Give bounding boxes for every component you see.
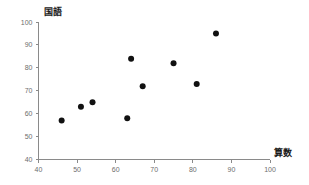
y-tick-label: 80 <box>25 64 33 71</box>
data-point <box>194 81 200 87</box>
scatter-chart: 405060708090100 405060708090100 国語 算数 <box>0 0 309 185</box>
y-axis-title: 国語 <box>44 6 62 17</box>
x-tick-label: 80 <box>189 166 197 173</box>
data-point <box>128 56 134 62</box>
data-point <box>213 30 219 36</box>
y-tick-label: 100 <box>21 19 33 26</box>
data-point <box>90 99 96 105</box>
x-tick-label: 40 <box>35 166 43 173</box>
x-axis-title: 算数 <box>274 147 293 158</box>
x-tick-label: 100 <box>264 166 276 173</box>
x-tick-label: 70 <box>150 166 158 173</box>
y-tick-label: 40 <box>25 156 33 163</box>
x-tick-label: 90 <box>228 166 236 173</box>
data-point <box>78 104 84 110</box>
data-point <box>124 115 130 121</box>
data-point <box>140 83 146 89</box>
x-tick-group: 405060708090100 <box>35 160 276 173</box>
data-points-group <box>59 30 219 123</box>
data-point <box>171 60 177 66</box>
x-tick-label: 60 <box>112 166 120 173</box>
y-tick-group: 405060708090100 <box>21 19 39 164</box>
x-tick-label: 50 <box>73 166 81 173</box>
data-point <box>59 118 65 124</box>
y-tick-label: 50 <box>25 133 33 140</box>
y-tick-label: 90 <box>25 41 33 48</box>
y-tick-label: 70 <box>25 87 33 94</box>
plot-area: 405060708090100 405060708090100 国語 算数 <box>0 0 309 185</box>
y-tick-label: 60 <box>25 110 33 117</box>
